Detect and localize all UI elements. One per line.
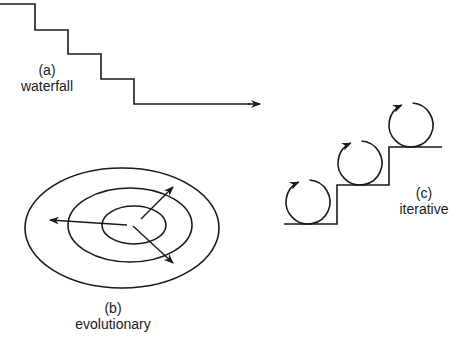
evolutionary-arrow-icon: [50, 220, 127, 225]
evolutionary-outer-ring: [25, 168, 219, 288]
waterfall-letter: (a): [21, 62, 73, 78]
iteration-cycle-arrow-icon: [286, 180, 330, 224]
evolutionary-inner-ring: [102, 206, 166, 244]
evolutionary-name: evolutionary: [75, 316, 151, 332]
iterative-letter: (c): [399, 185, 448, 201]
iteration-cycle-arrow-icon: [338, 141, 382, 185]
iteration-cycle-arrow-icon: [389, 103, 433, 147]
evolutionary-letter: (b): [75, 300, 151, 316]
evolutionary-diagram: [25, 168, 219, 288]
evolutionary-label: (b) evolutionary: [75, 300, 151, 332]
process-models-diagram: [0, 0, 459, 345]
waterfall-name: waterfall: [21, 78, 73, 94]
waterfall-label: (a) waterfall: [21, 62, 73, 94]
evolutionary-middle-ring: [68, 188, 192, 262]
iterative-name: iterative: [399, 201, 448, 217]
iterative-label: (c) iterative: [399, 185, 448, 217]
